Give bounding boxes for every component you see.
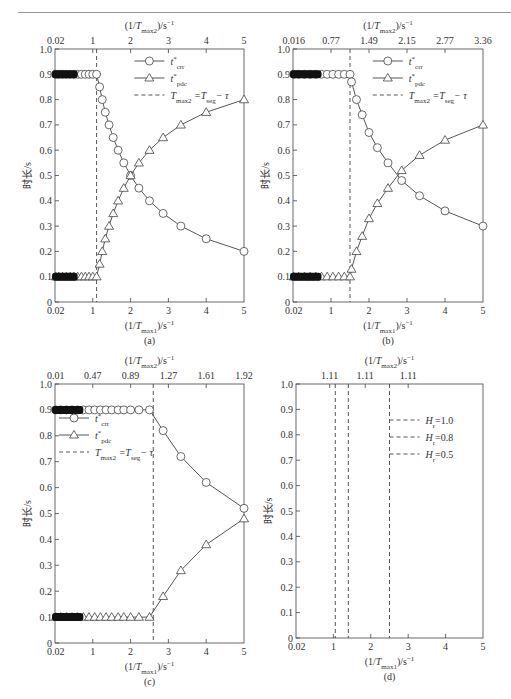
triangle-marker [105,222,114,230]
top-axis-title: (1/Tmax2)/s−1 [363,19,413,35]
x-tick-label: 5 [481,305,486,316]
circle-marker [365,128,373,136]
y-tick-label: 0.3 [40,221,53,232]
top-x-tick-label: 4 [204,35,209,46]
x-tick-label: 4 [204,305,209,316]
top-x-tick-label: 3 [166,35,171,46]
y-tick-label: 0.2 [278,246,291,257]
legend-label-threshold: Tmax2 =Tseg− τ [170,90,229,105]
circle-marker [240,504,248,512]
legend-triangle-icon [145,74,154,82]
top-x-tick-label: 1.61 [197,370,215,381]
legend-label-hr: Hr=0.8 [425,432,454,447]
circle-marker [93,70,101,78]
circle-marker [346,70,354,78]
circle-marker [202,235,210,243]
x-tick-label: 4 [204,646,209,657]
triangle-marker [358,232,367,240]
y-axis-title: 时长/s [260,162,271,189]
y-tick-label: 0.5 [40,170,53,181]
y-tick-label: 1.0 [281,379,294,390]
bottom-axis-title: (1/Tmax1)/s−1 [365,655,415,671]
triangle-marker [134,613,143,621]
x-tick-label: 0.02 [47,646,65,657]
x-tick-label: 3 [166,646,171,657]
y-tick-label: 0.6 [281,480,294,491]
top-axis-title: (1/Tmax2)/s−1 [125,354,175,370]
legend: t*crrt*pdcTmax2 =Tseg− τ [373,55,468,105]
panel-label: (b) [382,335,394,347]
triangle-marker [202,540,211,548]
triangle-marker [159,133,168,141]
x-tick-label: 2 [128,646,133,657]
y-tick-label: 0.9 [278,69,291,80]
plot-frame [55,49,244,302]
circle-marker [120,159,128,167]
circle-marker [416,192,424,200]
triangle-marker [240,95,249,103]
circle-marker [348,78,356,86]
top-x-tick-label: 2.77 [436,35,454,46]
circle-marker [441,207,449,215]
circle-marker [352,96,360,104]
bottom-axis-title: (1/Tmax1)/s−1 [125,660,175,676]
top-x-tick-label: 1.11 [321,370,338,381]
y-tick-label: 0.9 [40,69,53,80]
series-line [56,410,244,508]
chart-panel-d: 00.10.20.30.40.50.60.70.80.91.00.0212345… [263,354,486,683]
x-tick-label: 0.02 [285,305,303,316]
x-tick-label: 5 [242,646,247,657]
legend-label-pdc: t*pdc [95,429,111,445]
y-axis-title: 时长/s [22,500,33,527]
triangle-marker [176,120,185,128]
top-x-tick-label: 1.27 [160,370,178,381]
x-tick-label: 1 [331,641,336,652]
y-axis-title: 时长/s [263,498,274,525]
y-tick-label: 0.4 [40,195,53,206]
legend-label-pdc: t*pdc [409,72,425,88]
panel-label: (d) [384,671,396,683]
circle-marker [135,184,143,192]
circle-marker [146,406,154,414]
x-tick-label: 5 [242,305,247,316]
dense-marker-band [290,70,322,78]
series-line [294,125,483,277]
dense-marker-band [52,613,83,621]
circle-marker [159,427,167,435]
top-x-tick-label: 0.77 [322,35,340,46]
triangle-marker [159,592,168,600]
legend: t*crrt*pdcTmax2 =Tseg− τ [59,412,154,462]
triangle-marker [98,247,107,255]
dense-marker-band [52,70,78,78]
y-tick-label: 0.4 [40,534,53,545]
top-x-tick-label: 1.11 [400,370,417,381]
top-axis-title: (1/Tmax2)/s−1 [125,19,175,35]
y-tick-label: 0.2 [40,586,53,597]
triangle-marker [109,209,118,217]
triangle-marker [145,613,154,621]
x-tick-label: 1 [90,305,95,316]
y-tick-label: 0.7 [40,456,53,467]
y-axis-title: 时长/s [22,162,33,189]
panel-label: (a) [144,335,155,347]
circle-marker [177,453,185,461]
x-tick-label: 2 [367,305,372,316]
y-tick-label: 0.9 [40,404,53,415]
triangle-marker [441,136,450,144]
triangle-marker [347,265,356,273]
legend-label-crr: t*crr [409,55,424,71]
y-tick-label: 0.4 [278,195,291,206]
top-x-tick-label: 2.15 [398,35,416,46]
x-tick-label: 1 [329,305,334,316]
series-line [56,100,244,277]
legend-circle-icon [384,57,392,65]
triangle-marker [397,166,406,174]
triangle-marker [479,120,488,128]
circle-marker [114,146,122,154]
circle-marker [109,134,117,142]
dense-marker-band [52,406,83,414]
top-x-tick-label: 1 [90,35,95,46]
triangle-marker [114,196,123,204]
x-tick-label: 3 [405,305,410,316]
top-x-tick-label: 3.36 [474,35,492,46]
